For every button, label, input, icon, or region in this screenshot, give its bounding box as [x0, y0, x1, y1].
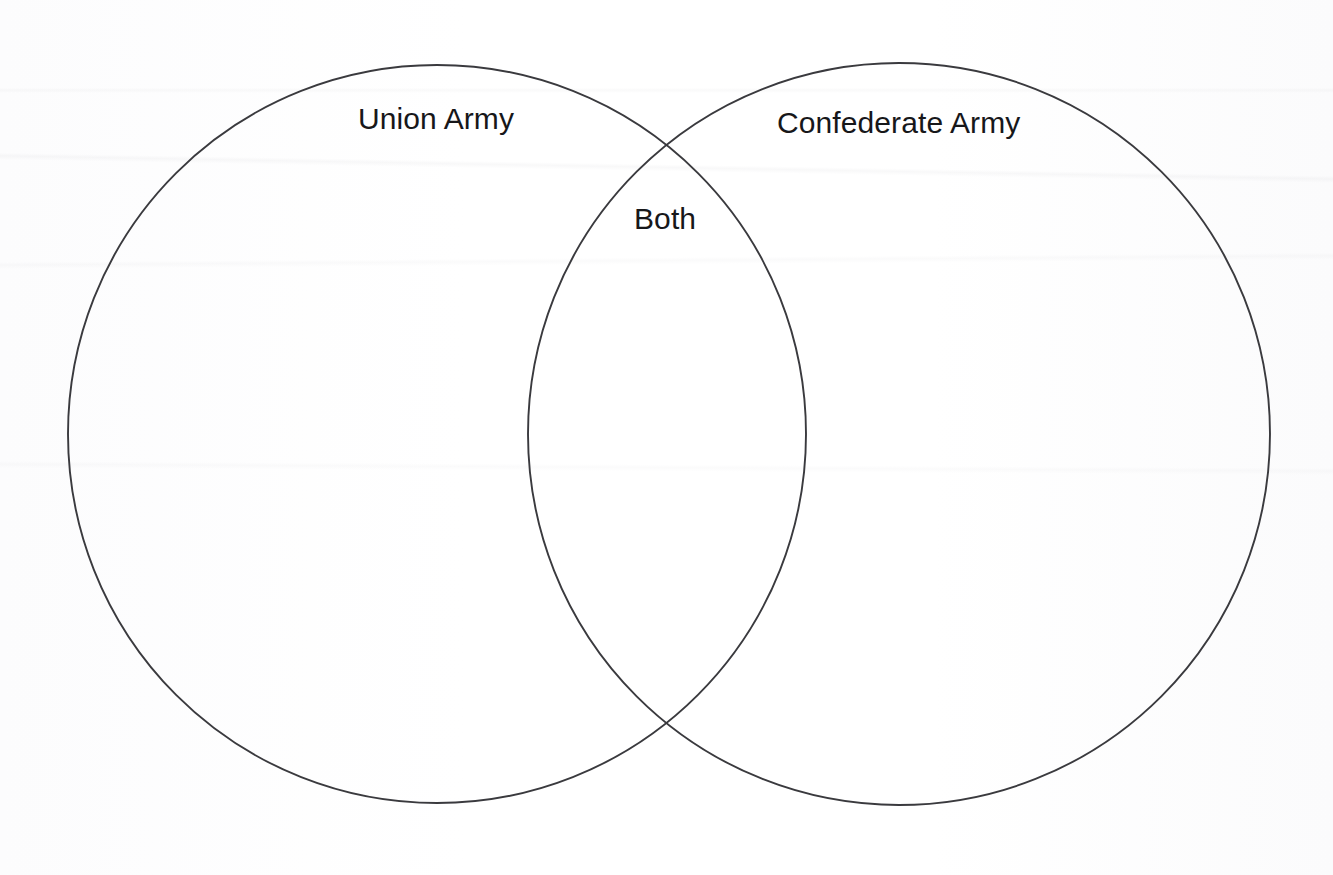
venn-circle-left[interactable]	[68, 65, 806, 803]
worksheet-page: Union Army Confederate Army Both	[0, 0, 1333, 875]
venn-label-right-set: Confederate Army	[777, 106, 1020, 140]
venn-label-left-set: Union Army	[358, 102, 514, 136]
venn-circles	[68, 63, 1270, 805]
venn-diagram-canvas	[0, 0, 1333, 875]
venn-circle-right[interactable]	[528, 63, 1270, 805]
venn-label-intersection: Both	[634, 202, 696, 236]
